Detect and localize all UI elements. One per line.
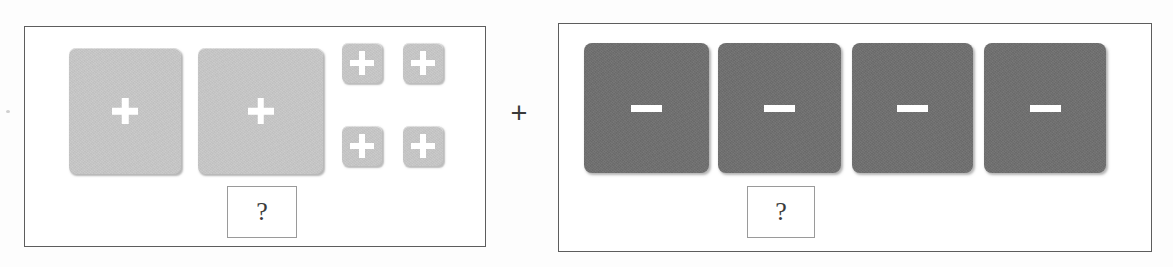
plus-icon xyxy=(350,51,374,75)
minus-icon xyxy=(631,105,662,112)
answer-placeholder-text: ? xyxy=(775,199,787,225)
minus-icon xyxy=(897,105,928,112)
tile-light-large-2[interactable] xyxy=(198,48,323,174)
figure-canvas: ? + ? xyxy=(0,0,1173,267)
tile-dark-3[interactable] xyxy=(852,43,973,173)
tile-light-small-3[interactable] xyxy=(342,126,382,166)
tile-dark-4[interactable] xyxy=(984,43,1106,173)
plus-icon xyxy=(411,134,435,158)
tile-light-large-1[interactable] xyxy=(69,48,181,174)
tile-dark-1[interactable] xyxy=(584,43,709,173)
plus-icon xyxy=(411,51,435,75)
answer-placeholder-text: ? xyxy=(256,199,268,225)
answer-box-left[interactable]: ? xyxy=(227,186,297,238)
minus-icon xyxy=(764,105,795,112)
plus-operator-icon: + xyxy=(500,94,538,132)
plus-icon xyxy=(350,134,374,158)
minus-icon xyxy=(1030,105,1061,112)
tile-light-small-4[interactable] xyxy=(403,126,443,166)
answer-box-right[interactable]: ? xyxy=(747,186,815,238)
plus-icon xyxy=(112,98,138,124)
tile-dark-2[interactable] xyxy=(718,43,841,173)
tile-light-small-1[interactable] xyxy=(342,43,382,83)
right-panel xyxy=(558,23,1152,252)
scan-artifact-speck xyxy=(6,110,10,113)
tile-light-small-2[interactable] xyxy=(403,43,443,83)
plus-icon xyxy=(248,98,274,124)
